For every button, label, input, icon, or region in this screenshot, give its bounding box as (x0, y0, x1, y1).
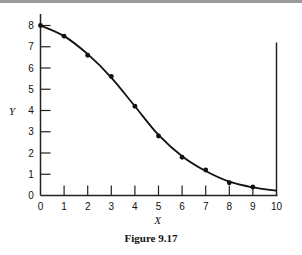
y-tick-label: 8 (28, 20, 34, 31)
y-tick-label: 6 (28, 63, 34, 74)
x-tick-label: 3 (109, 201, 115, 212)
x-tick-label: 4 (132, 201, 138, 212)
x-tick-label: 6 (179, 201, 185, 212)
y-tick-label: 1 (28, 169, 34, 180)
y-axis-label: Y (9, 105, 17, 117)
data-point (62, 34, 67, 39)
x-axis-label: X (153, 214, 162, 226)
fitted-curve (41, 26, 277, 191)
data-point (227, 180, 232, 185)
y-tick-label: 5 (28, 84, 34, 95)
x-tick-label: 1 (61, 201, 67, 212)
data-point (203, 168, 208, 173)
data-point (180, 155, 185, 160)
data-point (38, 23, 43, 28)
y-tick-label: 7 (28, 41, 34, 52)
x-tick-label: 5 (156, 201, 162, 212)
y-tick-label: 0 (28, 190, 34, 201)
x-tick-label: 9 (250, 201, 256, 212)
x-tick-label: 10 (271, 201, 283, 212)
x-tick-label: 7 (203, 201, 209, 212)
x-tick-label: 0 (38, 201, 44, 212)
data-point (133, 104, 138, 109)
x-tick-label: 2 (85, 201, 91, 212)
data-point (156, 134, 161, 139)
data-point (251, 185, 256, 190)
y-tick-label: 2 (28, 148, 34, 159)
chart: 012345678012345678910YX (0, 0, 302, 230)
figure-caption: Figure 9.17 (0, 232, 302, 244)
y-tick-label: 4 (28, 105, 34, 116)
data-point (109, 74, 114, 79)
x-tick-label: 8 (227, 201, 233, 212)
y-tick-label: 3 (28, 126, 34, 137)
data-point (85, 53, 90, 58)
